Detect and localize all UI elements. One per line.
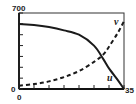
y-max-label: 700 [12, 4, 26, 13]
series-v-label: v [114, 16, 119, 27]
series-u-label: u [107, 72, 113, 83]
x-max-label: 35 [125, 86, 134, 95]
y-min-label: 0 [11, 85, 16, 94]
chart: 700 0 0 35 v u [0, 0, 136, 104]
x-min-label: 0 [17, 93, 22, 102]
